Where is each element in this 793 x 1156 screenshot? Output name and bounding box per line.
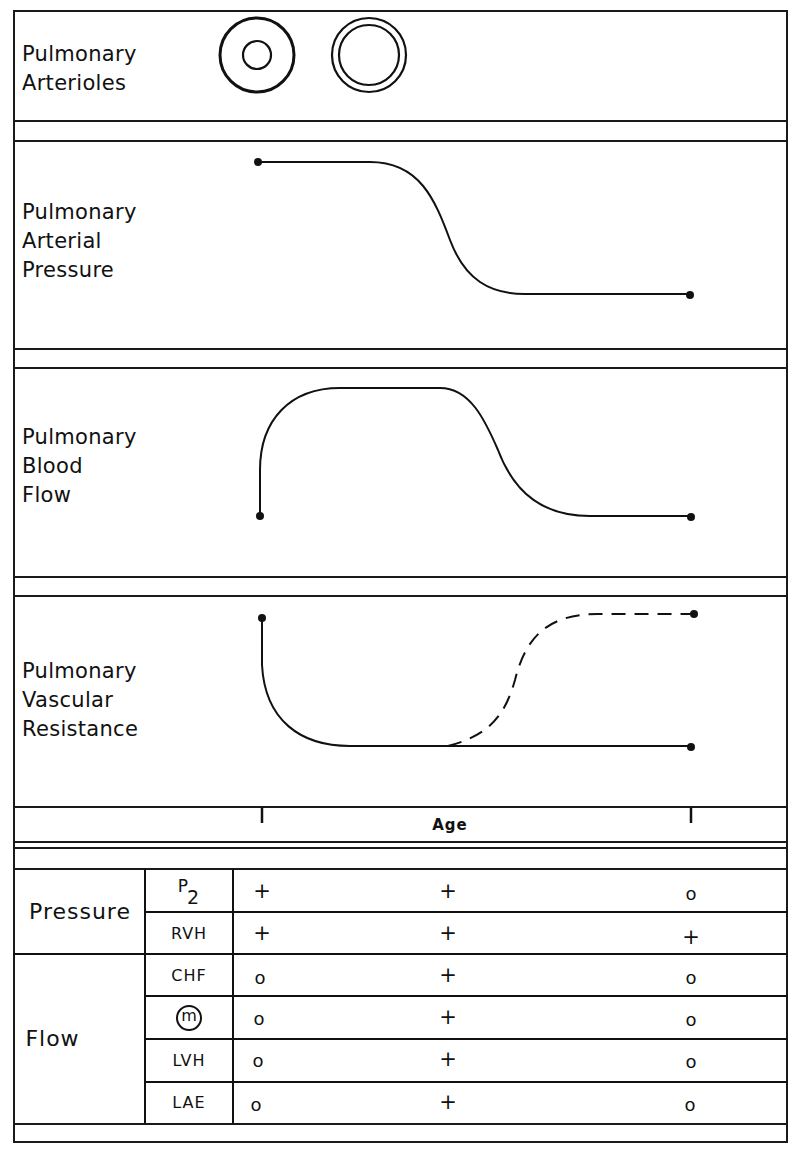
- cell-value: +: [439, 1047, 457, 1071]
- sign-rvh: RVH: [145, 912, 233, 954]
- diagram-graphics: [0, 0, 793, 1156]
- cell-value: o: [684, 1094, 695, 1115]
- murmur-circle-icon: m: [176, 1005, 202, 1031]
- sign-p2: P2: [145, 869, 233, 912]
- data-point: [256, 512, 264, 520]
- p2-subscript: 2: [187, 886, 200, 908]
- cell-value: +: [439, 879, 457, 903]
- cell-value: +: [439, 921, 457, 945]
- cell-value: o: [685, 883, 696, 904]
- resistance-dashed-curve: [448, 614, 694, 746]
- age-axis-label: Age: [420, 812, 480, 838]
- data-point: [254, 158, 262, 166]
- cell-value: +: [253, 921, 271, 945]
- pressure-curve: [258, 162, 690, 294]
- cell-value: o: [250, 1094, 261, 1115]
- resistance-curve: [262, 618, 692, 746]
- thick-arteriole-icon: [220, 18, 294, 92]
- group-label-flow: Flow: [15, 954, 90, 1123]
- cell-value: o: [253, 1008, 264, 1029]
- cell-value: +: [439, 1005, 457, 1029]
- sign-murmur: m: [145, 996, 233, 1039]
- flow-curve: [260, 388, 690, 516]
- cell-value: o: [685, 967, 696, 988]
- sign-lae: LAE: [145, 1082, 233, 1123]
- data-point: [687, 743, 695, 751]
- thin-arteriole-icon: [332, 18, 406, 92]
- cell-value: o: [252, 1050, 263, 1071]
- data-point: [258, 614, 266, 622]
- cell-value: +: [439, 1090, 457, 1114]
- sign-chf: CHF: [145, 954, 233, 996]
- sign-lvh: LVH: [145, 1039, 233, 1082]
- cell-value: o: [254, 967, 265, 988]
- data-point: [687, 513, 695, 521]
- cell-value: +: [253, 879, 271, 903]
- cell-value: +: [682, 925, 700, 949]
- group-label-pressure: Pressure: [15, 869, 145, 954]
- cell-value: +: [439, 963, 457, 987]
- cell-value: o: [685, 1051, 696, 1072]
- data-point: [686, 291, 694, 299]
- data-point: [690, 610, 698, 618]
- cell-value: o: [685, 1009, 696, 1030]
